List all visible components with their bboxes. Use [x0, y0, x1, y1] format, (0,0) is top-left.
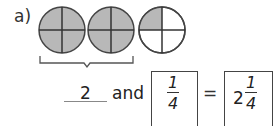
fraction-one-quarter: 1 4	[167, 74, 179, 112]
circle-whole-1	[39, 7, 85, 53]
and-word: and	[112, 83, 144, 103]
mixed-fraction-bar	[245, 92, 257, 93]
fraction-denominator: 4	[168, 95, 178, 112]
fraction-bar	[167, 92, 179, 93]
equals-sign: =	[203, 83, 217, 103]
mixed-denominator: 4	[246, 95, 256, 112]
fraction-numerator: 1	[168, 74, 178, 91]
wholes-answer: 2	[64, 83, 107, 103]
fraction-exercise: a) 2 and 1 4 = 2	[0, 0, 279, 126]
answer-blank-line	[64, 101, 107, 102]
bracket	[40, 56, 133, 67]
mixed-fraction: 1 4	[245, 74, 257, 112]
mixed-numerator: 1	[246, 74, 256, 91]
circle-quarter	[139, 7, 185, 53]
circle-whole-2	[88, 7, 134, 53]
mixed-whole: 2	[233, 88, 244, 108]
